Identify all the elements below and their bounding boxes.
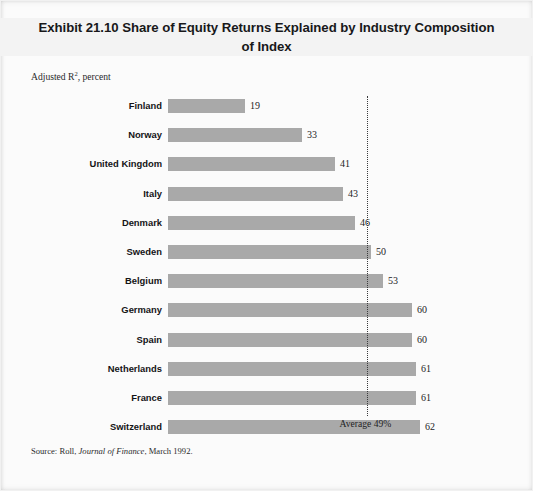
source-note: Source: Roll, Journal of Finance, March … bbox=[31, 446, 193, 456]
bar bbox=[168, 274, 383, 288]
bar-row: Sweden50 bbox=[0, 245, 533, 259]
bar-row: Spain60 bbox=[0, 333, 533, 347]
bar-category-label: Finland bbox=[26, 99, 162, 113]
source-journal-name: Journal of Finance bbox=[79, 446, 145, 456]
bar-row: Belgium53 bbox=[0, 274, 533, 288]
bar-value-label: 61 bbox=[421, 391, 431, 405]
bar-row: United Kingdom41 bbox=[0, 157, 533, 171]
bar-chart-plot-area: Finland19Norway33United Kingdom41Italy43… bbox=[0, 91, 533, 421]
bar-row: Germany60 bbox=[0, 303, 533, 317]
axis-unit-note: Adjusted R2, percent bbox=[31, 71, 111, 82]
exhibit-title-line-2: of Index bbox=[34, 37, 499, 56]
bar-row: France61 bbox=[0, 391, 533, 405]
bar bbox=[168, 303, 412, 317]
bar-value-label: 33 bbox=[307, 128, 317, 142]
bar-value-label: 50 bbox=[376, 245, 386, 259]
bar-row: Netherlands61 bbox=[0, 362, 533, 376]
bar-value-label: 41 bbox=[340, 157, 350, 171]
bar-category-label: Spain bbox=[26, 333, 162, 347]
bar bbox=[168, 128, 302, 142]
page-title: Exhibit 21.10 Share of Equity Returns Ex… bbox=[34, 18, 499, 56]
bar-value-label: 53 bbox=[388, 274, 398, 288]
exhibit-title-line-1: Exhibit 21.10 Share of Equity Returns Ex… bbox=[39, 20, 495, 35]
bar bbox=[168, 157, 335, 171]
bar-category-label: Sweden bbox=[26, 245, 162, 259]
exhibit-figure: Exhibit 21.10 Share of Equity Returns Ex… bbox=[0, 0, 533, 491]
bar-value-label: 46 bbox=[360, 216, 370, 230]
average-reference-line bbox=[367, 96, 368, 416]
bar bbox=[168, 216, 355, 230]
bar bbox=[168, 187, 343, 201]
axis-unit-note-tail: , percent bbox=[78, 71, 111, 82]
bar-category-label: Denmark bbox=[26, 216, 162, 230]
bar-category-label: France bbox=[26, 391, 162, 405]
bar-value-label: 43 bbox=[348, 187, 358, 201]
bar bbox=[168, 362, 416, 376]
bar-category-label: Italy bbox=[26, 187, 162, 201]
bar-row: Finland19 bbox=[0, 99, 533, 113]
bar-category-label: United Kingdom bbox=[26, 157, 162, 171]
bar-value-label: 19 bbox=[250, 99, 260, 113]
bar-category-label: Netherlands bbox=[26, 362, 162, 376]
bar bbox=[168, 333, 412, 347]
bar-value-label: 60 bbox=[417, 333, 427, 347]
bar-category-label: Belgium bbox=[26, 274, 162, 288]
bar-category-label: Switzerland bbox=[26, 420, 162, 434]
bar bbox=[168, 245, 371, 259]
source-suffix: , March 1992. bbox=[144, 446, 192, 456]
bar-row: Denmark46 bbox=[0, 216, 533, 230]
bar-row: Norway33 bbox=[0, 128, 533, 142]
bar-value-label: 60 bbox=[417, 303, 427, 317]
bar-value-label: 62 bbox=[425, 420, 435, 434]
bar bbox=[168, 99, 245, 113]
exhibit-title-band: Exhibit 21.10 Share of Equity Returns Ex… bbox=[0, 18, 533, 56]
bar-value-label: 61 bbox=[421, 362, 431, 376]
bar-category-label: Norway bbox=[26, 128, 162, 142]
axis-unit-note-text: Adjusted R bbox=[31, 71, 74, 82]
bar-row: Italy43 bbox=[0, 187, 533, 201]
source-prefix: Source: Roll, bbox=[31, 446, 79, 456]
bar-row: Switzerland62 bbox=[0, 420, 533, 434]
bar bbox=[168, 391, 416, 405]
bar-category-label: Germany bbox=[26, 303, 162, 317]
average-reference-label: Average 49% bbox=[340, 418, 392, 429]
